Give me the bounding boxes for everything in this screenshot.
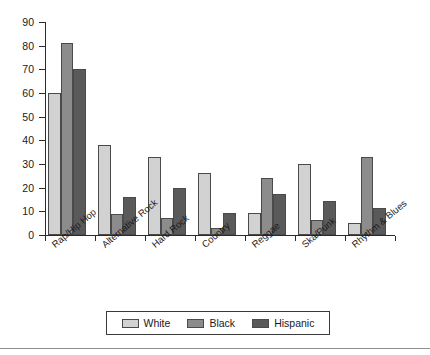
legend-label: White: [144, 318, 171, 329]
bar: [98, 145, 111, 235]
bars-layer: [45, 22, 395, 235]
legend-swatch-icon: [122, 319, 139, 328]
y-axis-tick-label: 20: [4, 183, 34, 193]
bar: [48, 93, 61, 235]
legend-item: Hispanic: [252, 318, 314, 329]
category-axis-labels: Rap/Hip HopAlternative RockHard RockCoun…: [0, 238, 430, 308]
bottom-divider: [0, 348, 430, 349]
legend-item: White: [122, 318, 171, 329]
legend-label: Hispanic: [274, 318, 314, 329]
legend-swatch-icon: [187, 319, 204, 328]
bar: [148, 157, 161, 235]
y-axis-tick-label: 80: [4, 41, 34, 51]
plot-area: 0102030405060708090: [0, 0, 430, 250]
bar: [198, 173, 211, 235]
bar: [73, 69, 86, 235]
y-axis-tick-label: 40: [4, 135, 34, 145]
y-axis-tick-label: 10: [4, 206, 34, 216]
y-axis-tick-label: 70: [4, 64, 34, 74]
legend-swatch-icon: [252, 319, 269, 328]
y-axis-tick-label: 90: [4, 17, 34, 27]
y-axis-tick-label: 30: [4, 159, 34, 169]
bar: [61, 43, 74, 235]
y-axis-tick-label: 50: [4, 112, 34, 122]
bar: [298, 164, 311, 235]
y-axis-tick-label: 60: [4, 88, 34, 98]
grouped-bar-chart: 0102030405060708090 Rap/Hip HopAlternati…: [0, 0, 430, 355]
chart-legend: WhiteBlackHispanic: [106, 311, 330, 335]
legend-item: Black: [187, 318, 235, 329]
legend-label: Black: [209, 318, 235, 329]
